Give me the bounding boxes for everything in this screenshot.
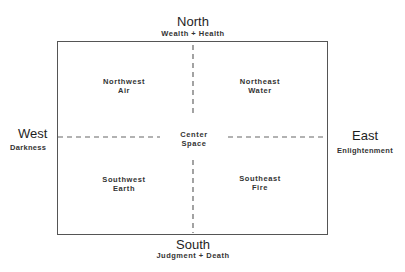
west-label: West bbox=[4, 126, 64, 141]
northeast-quadrant: Northeast Water bbox=[220, 77, 300, 95]
north-meaning: Wealth + Health bbox=[133, 29, 253, 38]
west-meaning: Darkness bbox=[10, 143, 60, 152]
center-area: Center Space bbox=[164, 130, 224, 148]
southwest-quadrant: Southwest Earth bbox=[84, 175, 164, 193]
southeast-quadrant: Southeast Fire bbox=[220, 174, 300, 192]
southwest-element: Earth bbox=[84, 184, 164, 193]
center-element: Space bbox=[164, 139, 224, 148]
north-label: North bbox=[143, 14, 243, 29]
east-meaning: Enlightenment bbox=[325, 146, 405, 155]
northwest-quadrant: Northwest Air bbox=[84, 77, 164, 95]
northeast-element: Water bbox=[220, 86, 300, 95]
southwest-label: Southwest bbox=[84, 175, 164, 184]
east-label: East bbox=[330, 128, 400, 143]
northwest-element: Air bbox=[84, 86, 164, 95]
southeast-label: Southeast bbox=[220, 174, 300, 183]
southeast-element: Fire bbox=[220, 183, 300, 192]
south-label: South bbox=[143, 237, 243, 252]
center-label: Center bbox=[164, 130, 224, 139]
northwest-label: Northwest bbox=[84, 77, 164, 86]
northeast-label: Northeast bbox=[220, 77, 300, 86]
south-meaning: Judgment + Death bbox=[133, 251, 253, 260]
